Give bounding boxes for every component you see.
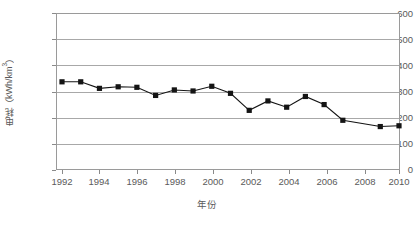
x-tick-mark-1998 — [175, 170, 176, 174]
gridline-400 — [57, 65, 399, 66]
x-tick-label-2000: 2000 — [196, 177, 230, 187]
x-tick-mark-1996 — [137, 170, 138, 174]
x-tick-mark-1994 — [99, 170, 100, 174]
y-axis-title: 电耗（kWh/km3） — [0, 42, 13, 138]
figure-caption — [0, 220, 413, 226]
x-tick-mark-2004 — [289, 170, 290, 174]
x-tick-mark-2006 — [327, 170, 328, 174]
x-tick-label-2006: 2006 — [310, 177, 344, 187]
x-tick-label-1998: 1998 — [158, 177, 192, 187]
x-tick-mark-2010 — [399, 170, 400, 174]
y-axis-title-exponent: 3 — [1, 63, 8, 67]
x-tick-mark-2008 — [365, 170, 366, 174]
x-tick-label-1994: 1994 — [82, 177, 116, 187]
gridline-200 — [57, 118, 399, 119]
y-axis-title-tail: ） — [4, 54, 14, 63]
x-tick-label-1996: 1996 — [120, 177, 154, 187]
x-axis-title: 年份 — [0, 200, 413, 210]
x-tick-label-2004: 2004 — [272, 177, 306, 187]
plot-area — [56, 13, 400, 170]
gridline-500 — [57, 39, 399, 40]
x-tick-label-1992: 1992 — [45, 177, 79, 187]
gridline-300 — [57, 92, 399, 93]
x-tick-label-2002: 2002 — [234, 177, 268, 187]
x-tick-mark-2000 — [213, 170, 214, 174]
x-tick-label-2008: 2008 — [348, 177, 382, 187]
y-tick-mark-0 — [52, 170, 56, 171]
y-axis-title-main: 电耗（kWh/km — [4, 67, 14, 127]
x-tick-mark-1992 — [62, 170, 63, 174]
x-tick-label-2010: 2010 — [382, 177, 416, 187]
x-tick-mark-2002 — [251, 170, 252, 174]
gridline-100 — [57, 144, 399, 145]
